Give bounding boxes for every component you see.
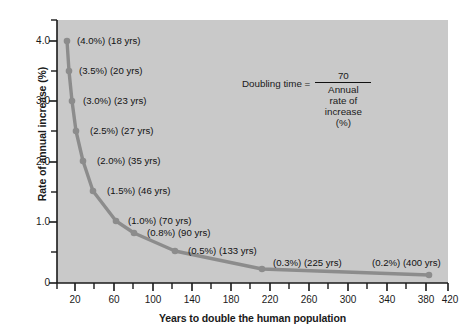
point-annotation: (1.0%) (70 yrs) bbox=[128, 216, 191, 226]
x-tick-label: 420 bbox=[430, 295, 467, 305]
point-annotation: (2.5%) (27 yrs) bbox=[90, 126, 153, 136]
x-tick-label: 300 bbox=[328, 295, 368, 305]
point-annotation: (0.5%) (133 yrs) bbox=[188, 246, 257, 256]
doubling-time-formula: Doubling time = 70 Annual rate of increa… bbox=[242, 70, 371, 128]
x-tick-label-group: 20 60 100 140 180 220 260 300 340 380 42… bbox=[0, 0, 467, 335]
formula-denominator-line: rate of bbox=[325, 95, 362, 106]
x-tick-label: 60 bbox=[94, 295, 134, 305]
y-axis-title: Rate of annual increase (%) bbox=[36, 14, 48, 254]
formula-numerator: 70 bbox=[330, 70, 357, 82]
point-annotation: (2.0%) (35 yrs) bbox=[97, 156, 160, 166]
formula-denominator: Annual rate of increase (%) bbox=[325, 83, 362, 128]
point-annotation: (1.5%) (46 yrs) bbox=[107, 186, 170, 196]
formula-left-side: Doubling time = bbox=[242, 70, 315, 89]
x-tick-label: 260 bbox=[289, 295, 329, 305]
point-annotation: (3.5%) (20 yrs) bbox=[79, 66, 142, 76]
chart-figure: 4.0 3.0 2.0 1.0 0 20 60 100 140 180 220 … bbox=[0, 0, 467, 335]
x-tick-label: 140 bbox=[172, 295, 212, 305]
point-annotation: (0.2%) (400 yrs) bbox=[372, 258, 441, 268]
x-tick-label: 180 bbox=[211, 295, 251, 305]
point-annotation: (3.0%) (23 yrs) bbox=[83, 96, 146, 106]
formula-fraction: 70 Annual rate of increase (%) bbox=[315, 70, 371, 128]
x-tick-label: 220 bbox=[250, 295, 290, 305]
x-tick-label: 20 bbox=[55, 295, 95, 305]
formula-denominator-line: increase bbox=[325, 106, 362, 117]
point-annotation: (4.0%) (18 yrs) bbox=[77, 36, 140, 46]
x-tick-label: 100 bbox=[133, 295, 173, 305]
point-annotation: (0.3%) (225 yrs) bbox=[273, 258, 342, 268]
formula-denominator-line: Annual bbox=[325, 84, 362, 95]
x-axis-title: Years to double the human population bbox=[57, 312, 448, 324]
point-annotation: (0.8%) (90 yrs) bbox=[147, 228, 210, 238]
formula-denominator-line: (%) bbox=[325, 117, 362, 128]
x-tick-label: 340 bbox=[367, 295, 407, 305]
